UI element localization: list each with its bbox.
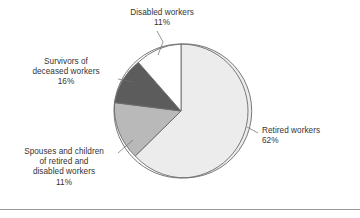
pie-label-disabled-workers: Disabled workers 11% xyxy=(110,8,214,28)
pie-label-spouses-line2: of retired and xyxy=(4,157,124,167)
pie-label-disabled-workers-value: 11% xyxy=(110,18,214,28)
pie-label-retired-workers-line1: Retired workers xyxy=(262,126,358,136)
pie-label-survivors-line1: Survivors of xyxy=(14,57,118,67)
pie-label-survivors: Survivors of deceased workers 16% xyxy=(14,57,118,88)
pie-label-disabled-workers-line1: Disabled workers xyxy=(110,8,214,18)
pie-label-spouses-line1: Spouses and children xyxy=(4,147,124,157)
pie-chart-figure: Disabled workers 11% Survivors of deceas… xyxy=(0,0,360,218)
pie-label-survivors-line2: deceased workers xyxy=(14,67,118,77)
pie-label-spouses-value: 11% xyxy=(4,178,124,188)
pie-label-retired-workers: Retired workers 62% xyxy=(262,126,358,146)
pie-label-spouses-line3: disabled workers xyxy=(4,167,124,177)
pie-label-survivors-value: 16% xyxy=(14,77,118,87)
pie-label-spouses-and-children: Spouses and children of retired and disa… xyxy=(4,147,124,188)
pie-label-retired-workers-value: 62% xyxy=(262,136,358,146)
bottom-divider xyxy=(0,209,360,210)
